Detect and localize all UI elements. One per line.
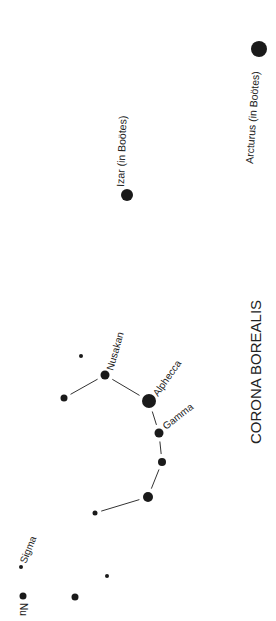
star-s1	[79, 354, 83, 358]
label-izar: Izar (in Boötes)	[114, 115, 128, 187]
constellation-title: CORONA BOREALIS	[247, 300, 264, 444]
stars	[19, 41, 267, 601]
star-s2	[61, 395, 68, 402]
label-arcturus: Arcturus (in Boötes)	[243, 71, 261, 164]
star-s6	[105, 574, 109, 578]
label-sigma: Sigma	[18, 534, 39, 565]
constellation-line	[71, 379, 98, 394]
star-s5	[93, 511, 98, 516]
star-nusakan	[101, 371, 110, 380]
star-gamma	[155, 429, 164, 438]
constellation-line	[112, 379, 139, 395]
label-nu: Nu	[18, 603, 29, 616]
star-s7	[72, 594, 79, 601]
star-nu	[20, 593, 27, 600]
star-chart: Arcturus (in Boötes) Izar (in Boötes) Nu…	[0, 0, 276, 621]
star-izar	[121, 189, 133, 201]
label-gamma: Gamma	[160, 401, 195, 432]
constellation-line	[152, 411, 156, 424]
star-sigma	[19, 565, 23, 569]
star-alphecca	[142, 394, 156, 408]
star-s4	[143, 492, 153, 502]
constellation-line	[160, 441, 161, 454]
star-s3	[158, 458, 166, 466]
label-nusakan: Nusakan	[104, 331, 125, 372]
star-arcturus	[251, 41, 267, 57]
constellation-line	[151, 469, 159, 488]
label-alphecca: Alphecca	[151, 358, 184, 398]
constellation-line	[101, 500, 139, 512]
